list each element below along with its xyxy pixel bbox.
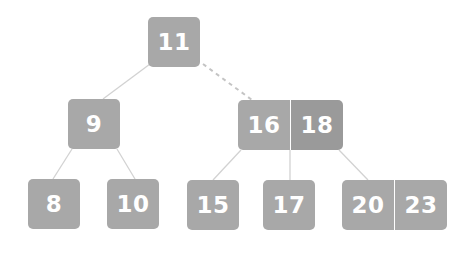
edge-11-9 <box>103 64 150 99</box>
node-key: 17 <box>263 180 315 230</box>
edge-9-8 <box>53 149 72 179</box>
leaf-10: 10 <box>107 179 159 229</box>
node-9: 9 <box>68 99 120 149</box>
node-key: 11 <box>148 17 200 67</box>
root-node: 11 <box>148 17 200 67</box>
edge-16-18-20-23 <box>339 150 368 180</box>
leaf-17: 17 <box>263 180 315 230</box>
leaf-20-23: 20 23 <box>342 180 447 230</box>
node-key-highlighted: 18 <box>290 100 343 150</box>
edge-11-16-18-dashed <box>203 64 252 100</box>
edge-9-10 <box>117 149 135 179</box>
node-key: 15 <box>187 180 239 230</box>
leaf-15: 15 <box>187 180 239 230</box>
node-key: 10 <box>107 179 159 229</box>
node-key: 16 <box>238 100 290 150</box>
edge-16-18-15 <box>213 150 241 180</box>
tree-diagram: 11 9 16 18 8 10 15 17 20 23 <box>0 0 470 253</box>
node-key: 8 <box>28 179 80 229</box>
node-16-18: 16 18 <box>238 100 343 150</box>
node-key: 23 <box>394 180 447 230</box>
leaf-8: 8 <box>28 179 80 229</box>
node-key: 9 <box>68 99 120 149</box>
node-key: 20 <box>342 180 394 230</box>
